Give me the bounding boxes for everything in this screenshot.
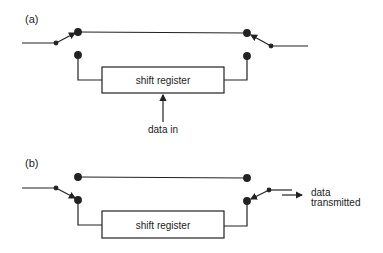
contact-top-right [244,30,251,37]
register-wire-right [224,56,247,80]
switch-blade-left [56,33,75,43]
data-transmitted-label-2: transmitted [311,197,360,208]
register-wire-right [224,201,247,226]
panel-b-label: (b) [25,157,38,169]
panel-b: (b) shift register data transmitted [22,157,360,238]
data-in-label: data in [148,124,178,135]
panel-a: (a) shift register data in [22,13,308,135]
register-wire-left [78,55,102,80]
shift-register-label-a: shift register [136,75,191,86]
switch-blade-right [251,190,269,199]
switch-blade-left [56,188,75,198]
shift-register-label-b: shift register [136,220,191,231]
circuit-diagram: (a) shift register data in (b) [0,0,383,253]
register-wire-left [78,200,102,225]
switch-blade-right [251,35,271,46]
panel-a-label: (a) [25,13,38,25]
bypass-wire [78,32,247,33]
contact-top-right [244,175,251,182]
bypass-wire [78,177,247,178]
